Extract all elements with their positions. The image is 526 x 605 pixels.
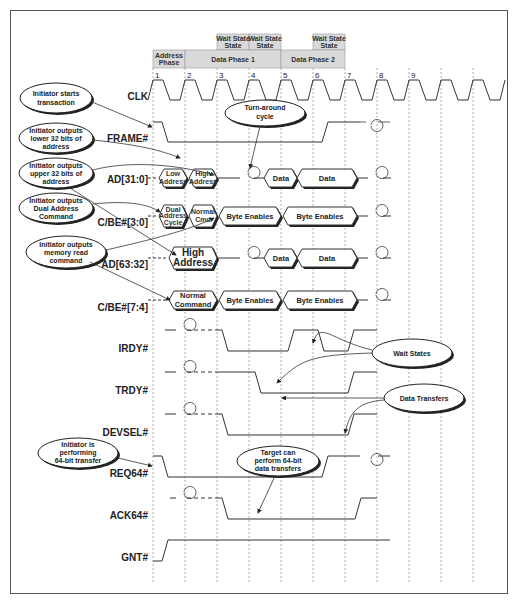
svg-text:4: 4 (251, 71, 256, 80)
signal-devsel: DEVSEL# (102, 427, 148, 438)
signal-ad-low: AD[31:0] (107, 174, 148, 185)
svg-text:data transfers: data transfers (255, 465, 301, 472)
svg-text:Cmd: Cmd (195, 216, 211, 223)
control-waveforms (153, 318, 390, 561)
svg-text:Data: Data (273, 254, 290, 263)
svg-text:Address: Address (173, 257, 213, 268)
svg-text:Wait State: Wait State (312, 35, 346, 42)
svg-text:Normal: Normal (191, 208, 215, 215)
svg-text:address: address (43, 178, 70, 185)
signal-cbe-high: C/BE#[7:4] (97, 302, 148, 313)
svg-text:Turn-around: Turn-around (244, 104, 285, 111)
callout-wait: Wait States (372, 339, 454, 369)
svg-text:Data Transfers: Data Transfers (400, 395, 449, 402)
clock-gridlines (153, 68, 473, 582)
svg-text:Phase: Phase (159, 59, 180, 66)
signal-cbe-low: C/BE#[3:0] (97, 217, 148, 228)
svg-text:Low: Low (166, 170, 181, 177)
svg-text:performing: performing (60, 449, 97, 457)
svg-text:Byte Enables: Byte Enables (226, 296, 273, 305)
svg-text:9: 9 (411, 71, 416, 80)
data-phase-1-label: Data Phase 1 (211, 56, 255, 63)
callout-lower32: Initiator outputs lower 32 bits of addre… (19, 123, 95, 155)
cbe-low-bus: Dual Address Cycle Normal Cmd Byte Enabl… (148, 205, 391, 228)
svg-text:Initiator outputs: Initiator outputs (39, 241, 92, 249)
svg-text:command: command (49, 257, 82, 264)
signal-ad-high: AD[63:32] (101, 259, 148, 270)
svg-text:upper 32 bits of: upper 32 bits of (30, 170, 83, 178)
svg-text:lower 32 bits of: lower 32 bits of (31, 135, 83, 142)
svg-text:Initiator outputs: Initiator outputs (29, 197, 82, 205)
svg-text:Address: Address (189, 178, 217, 185)
cbe-high-bus: Normal Command Byte Enables Byte Enables (148, 289, 391, 310)
svg-text:Target can: Target can (261, 449, 296, 457)
data-phase-2-label: Data Phase 2 (291, 56, 335, 63)
svg-text:Cycle: Cycle (164, 219, 183, 227)
svg-text:Byte Enables: Byte Enables (226, 212, 273, 221)
svg-text:Command: Command (175, 300, 212, 309)
svg-text:2: 2 (187, 71, 192, 80)
svg-text:7: 7 (347, 71, 352, 80)
svg-text:memory read: memory read (44, 249, 88, 257)
address-phase-label: Address (155, 52, 183, 59)
signal-clk: CLK (127, 91, 148, 102)
signal-gnt: GNT# (121, 552, 148, 563)
callout-dual: Initiator outputs Dual Address Command (19, 193, 95, 225)
svg-text:address: address (43, 143, 70, 150)
svg-text:Data: Data (273, 174, 290, 183)
svg-text:64-bit transfer: 64-bit transfer (55, 457, 102, 464)
callout-upper32: Initiator outputs upper 32 bits of addre… (19, 158, 95, 190)
timing-diagram: Wait State State Wait State State Wait S… (0, 0, 526, 605)
svg-text:6: 6 (315, 71, 320, 80)
gnt-waveform (153, 540, 390, 561)
svg-text:State: State (320, 42, 337, 49)
callout-perf64: Initiator is performing 64-bit transfer (38, 438, 120, 470)
svg-text:Byte Enables: Byte Enables (296, 212, 343, 221)
callout-turnaround: Turn-around cycle (225, 100, 307, 128)
signal-req64: REQ64# (110, 468, 149, 479)
svg-text:Address: Address (159, 178, 187, 185)
svg-text:Initiator is: Initiator is (61, 441, 95, 448)
turnaround-icon (360, 119, 390, 131)
svg-text:transaction: transaction (37, 99, 75, 106)
svg-text:Data: Data (319, 174, 336, 183)
ack64-waveform (215, 498, 377, 519)
svg-text:Byte Enables: Byte Enables (296, 296, 343, 305)
svg-text:cycle: cycle (256, 113, 274, 121)
svg-text:Data: Data (319, 254, 336, 263)
svg-text:Normal: Normal (180, 291, 206, 300)
svg-text:Wait State: Wait State (248, 35, 282, 42)
irdy-waveform (215, 330, 377, 351)
signal-ack64: ACK64# (110, 510, 149, 521)
svg-text:perform 64-bit: perform 64-bit (254, 457, 302, 465)
callout-starts: Initiator starts transaction (20, 83, 94, 115)
callout-transfers: Data Transfers (384, 384, 466, 414)
svg-text:Dual Address: Dual Address (34, 205, 79, 212)
callout-target64: Target can perform 64-bit data transfers (237, 446, 321, 478)
ad-high-bus: High Address Data Data (148, 247, 391, 270)
svg-text:State: State (224, 42, 241, 49)
svg-text:Address: Address (159, 212, 187, 219)
phase-header: Wait State State Wait State State Wait S… (153, 34, 346, 68)
ad-low-bus: Low Address High Address Data Data (148, 167, 391, 187)
svg-text:Wait States: Wait States (393, 350, 431, 357)
svg-text:Initiator outputs: Initiator outputs (29, 162, 82, 170)
svg-text:3: 3 (219, 71, 224, 80)
svg-text:8: 8 (379, 71, 384, 80)
devsel-waveform (215, 414, 377, 435)
svg-text:5: 5 (283, 71, 288, 80)
signal-labels: CLK FRAME# AD[31:0] C/BE#[3:0] AD[63:32]… (97, 91, 148, 563)
svg-text:Command: Command (39, 213, 73, 220)
svg-text:Initiator outputs: Initiator outputs (29, 127, 82, 135)
trdy-waveform (215, 372, 377, 393)
clk-waveform (148, 80, 505, 100)
signal-irdy: IRDY# (119, 343, 149, 354)
signal-trdy: TRDY# (115, 385, 148, 396)
svg-text:Initiator starts: Initiator starts (33, 90, 80, 97)
svg-text:1: 1 (155, 71, 160, 80)
svg-text:State: State (256, 42, 273, 49)
wait-state-label: Wait State (216, 35, 250, 42)
